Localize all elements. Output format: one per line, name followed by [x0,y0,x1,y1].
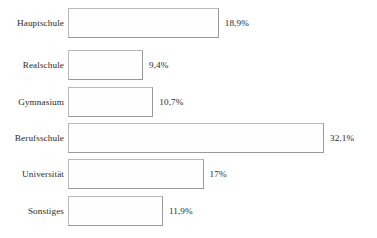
category-label: Sonstiges [0,206,68,217]
chart-row: Universität 17% [0,158,377,190]
chart-row: Berufsschule 32,1% [0,122,377,154]
bar-track: 18,9% [68,7,377,39]
bar[interactable] [68,159,204,189]
bar[interactable] [68,196,163,226]
chart-row: Hauptschule 18,9% [0,7,377,39]
category-label: Gymnasium [0,97,68,108]
chart-row: Realschule 9,4% [0,49,377,81]
bar-value-label: 11,9% [169,206,193,217]
category-label: Realschule [0,60,68,71]
bar-track: 32,1% [68,122,377,154]
bar[interactable] [68,50,143,80]
bar[interactable] [68,87,153,117]
bar-chart: Hauptschule 18,9% Realschule 9,4% Gymnas… [0,0,377,238]
chart-row: Sonstiges 11,9% [0,195,377,227]
bar-value-label: 9,4% [149,60,169,71]
bar-value-label: 10,7% [159,97,183,108]
category-label: Berufsschule [0,133,68,144]
bar[interactable] [68,8,219,38]
bar-track: 9,4% [68,49,377,81]
chart-row: Gymnasium 10,7% [0,86,377,118]
bar-value-label: 32,1% [330,133,354,144]
bar[interactable] [68,123,324,153]
bar-track: 11,9% [68,195,377,227]
category-label: Hauptschule [0,18,68,29]
bar-track: 17% [68,158,377,190]
bar-value-label: 17% [210,169,227,180]
category-label: Universität [0,169,68,180]
bar-track: 10,7% [68,86,377,118]
bar-value-label: 18,9% [225,18,249,29]
